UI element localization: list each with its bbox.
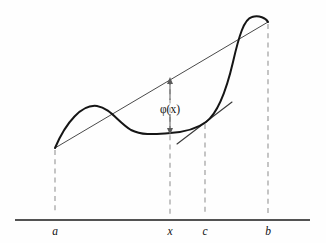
phi-arrow-head-up: [167, 77, 173, 84]
function-curve: [55, 16, 268, 148]
tick-label-c: c: [202, 225, 207, 237]
figure-container: φ(x) a x c b: [0, 0, 326, 243]
chord-line: [55, 22, 268, 148]
tick-labels-group: a x c b: [52, 225, 271, 237]
convexity-diagram: φ(x) a x c b: [0, 0, 326, 243]
tick-label-a: a: [52, 225, 58, 237]
tick-label-b: b: [265, 225, 271, 237]
phi-gap-label: φ(x): [160, 103, 180, 116]
tick-label-x: x: [166, 225, 173, 237]
